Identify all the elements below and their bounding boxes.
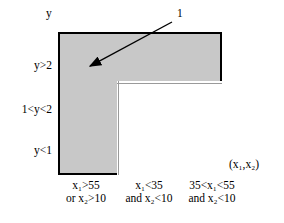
y-tick-label-mid: 1<y<2 — [0, 103, 52, 116]
x-tick-col2-line1: x₁<35 — [135, 179, 163, 191]
y-axis-label: y — [46, 7, 52, 20]
grid-line-vertical — [118, 81, 119, 175]
x-tick-label-col3: 35<x₁<55 and x₂<10 — [176, 179, 248, 205]
x-tick-label-col2: x₁<35 and x₂<10 — [118, 179, 180, 205]
diagram-canvas: 1 y (x₁,x₂) y>2 1<y<2 y<1 x₁>55 or x₂>10… — [0, 0, 284, 223]
x-tick-col3-line2: and x₂<10 — [176, 192, 248, 205]
y-tick-label-high: y>2 — [0, 59, 52, 72]
x-tick-col3-line1: 35<x₁<55 — [189, 179, 235, 191]
x-tick-col2-line2: and x₂<10 — [118, 192, 180, 205]
plot-frame — [58, 32, 222, 175]
x-tick-col1-line1: x₁>55 — [72, 179, 100, 191]
callout-label-1: 1 — [177, 7, 183, 20]
x-axis-label: (x₁,x₂) — [229, 158, 259, 171]
grid-line-horizontal — [117, 83, 222, 84]
unshaded-region — [117, 81, 222, 175]
x-tick-col1-line2: or x₂>10 — [53, 192, 119, 205]
x-tick-label-col1: x₁>55 or x₂>10 — [53, 179, 119, 205]
y-tick-label-low: y<1 — [0, 144, 52, 157]
